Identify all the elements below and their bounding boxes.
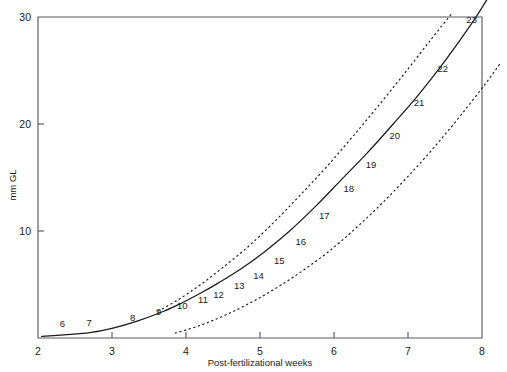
series-1-dashed xyxy=(158,13,453,312)
stage-label-6: 6 xyxy=(60,318,65,329)
x-tick-label-5: 5 xyxy=(257,345,263,357)
x-tick-label-7: 7 xyxy=(405,345,411,357)
stage-label-16: 16 xyxy=(295,236,306,247)
x-axis-title: Post-fertilizational weeks xyxy=(208,357,313,368)
stage-label-8: 8 xyxy=(130,312,135,323)
stage-label-15: 15 xyxy=(274,255,285,266)
figure-container: 67891011121314151617181920212223 2345678… xyxy=(0,0,507,372)
y-tick-label-30: 30 xyxy=(19,11,31,23)
stage-label-14: 14 xyxy=(253,270,264,281)
stage-label-17: 17 xyxy=(319,210,330,221)
y-axis-title: mm GL xyxy=(7,169,18,200)
series-0-solid xyxy=(42,0,490,336)
stage-label-9: 9 xyxy=(156,306,161,317)
x-tick-label-3: 3 xyxy=(109,345,115,357)
curve-lines xyxy=(42,0,501,336)
x-tick-label-2: 2 xyxy=(35,345,41,357)
y-tick-label-20: 20 xyxy=(19,118,31,130)
axis-frame xyxy=(38,17,482,338)
stage-label-12: 12 xyxy=(213,289,224,300)
stage-label-23: 23 xyxy=(466,14,477,25)
stage-label-21: 21 xyxy=(414,97,425,108)
stage-label-22: 22 xyxy=(437,63,448,74)
y-tick-label-10: 10 xyxy=(19,225,31,237)
x-tick-label-8: 8 xyxy=(479,345,485,357)
stage-label-20: 20 xyxy=(389,130,400,141)
growth-curve-chart: 67891011121314151617181920212223 2345678… xyxy=(0,0,507,372)
x-tick-label-6: 6 xyxy=(331,345,337,357)
axis-tick-labels: 2345678102030 xyxy=(19,11,485,357)
stage-label-13: 13 xyxy=(234,280,245,291)
plot-frame xyxy=(38,17,482,338)
x-tick-label-4: 4 xyxy=(183,345,189,357)
stage-label-11: 11 xyxy=(198,294,208,305)
stage-label-18: 18 xyxy=(344,183,355,194)
stage-label-7: 7 xyxy=(86,317,91,328)
stage-label-19: 19 xyxy=(366,159,377,170)
stage-label-10: 10 xyxy=(177,300,188,311)
